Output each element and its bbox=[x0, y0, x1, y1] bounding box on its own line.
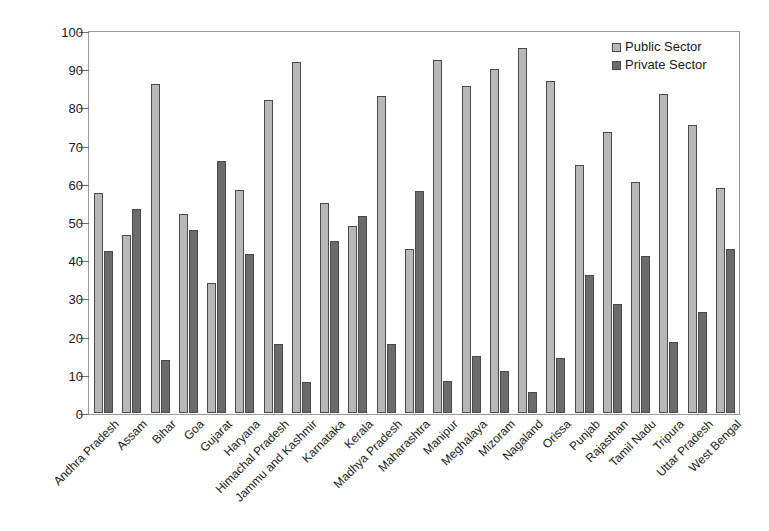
bar bbox=[716, 188, 725, 413]
bar bbox=[659, 94, 668, 413]
bar bbox=[490, 69, 499, 413]
bar-group bbox=[490, 33, 510, 413]
bar bbox=[122, 235, 131, 413]
bar-group bbox=[603, 33, 623, 413]
bar-group bbox=[151, 33, 171, 413]
bar bbox=[688, 125, 697, 413]
legend-item: Public Sector bbox=[612, 38, 707, 56]
bar bbox=[613, 304, 622, 413]
y-axis-tick-label: 20 bbox=[37, 330, 83, 345]
y-axis-tick-label: 70 bbox=[37, 139, 83, 154]
x-axis-label: Andhra Pradesh bbox=[51, 417, 122, 488]
bar-group bbox=[292, 33, 312, 413]
bar-group bbox=[462, 33, 482, 413]
bar bbox=[217, 161, 226, 413]
y-axis-tick-label: 30 bbox=[37, 292, 83, 307]
y-axis-title-text: Percentage of Employment bbox=[6, 0, 32, 26]
bar bbox=[161, 360, 170, 413]
y-axis-tick-label: 0 bbox=[37, 407, 83, 422]
legend-item-label: Private Sector bbox=[625, 56, 707, 74]
bar-group bbox=[122, 33, 142, 413]
bar bbox=[443, 381, 452, 413]
bar bbox=[462, 86, 471, 413]
y-axis-tick-label: 40 bbox=[37, 254, 83, 269]
bar-group bbox=[631, 33, 651, 413]
bar bbox=[575, 165, 584, 413]
bar bbox=[631, 182, 640, 413]
bar-group bbox=[377, 33, 397, 413]
y-axis-tick-label: 10 bbox=[37, 368, 83, 383]
bar bbox=[302, 382, 311, 413]
bar bbox=[405, 249, 414, 413]
bar bbox=[387, 344, 396, 413]
bar bbox=[104, 251, 113, 413]
bar bbox=[189, 230, 198, 413]
bar bbox=[546, 81, 555, 413]
bar bbox=[132, 209, 141, 413]
bar bbox=[320, 203, 329, 413]
bar-group bbox=[546, 33, 566, 413]
plot-area: 0102030405060708090100 bbox=[88, 31, 740, 415]
bar bbox=[528, 392, 537, 413]
bar-group bbox=[348, 33, 368, 413]
bar bbox=[94, 193, 103, 413]
bar bbox=[669, 342, 678, 413]
y-axis-tick-label: 80 bbox=[37, 101, 83, 116]
bar-group bbox=[264, 33, 284, 413]
bar-group bbox=[433, 33, 453, 413]
bar-group bbox=[320, 33, 340, 413]
bar bbox=[377, 96, 386, 413]
bar bbox=[151, 84, 160, 413]
bar bbox=[235, 190, 244, 413]
bar bbox=[698, 312, 707, 413]
bar bbox=[415, 191, 424, 413]
bar bbox=[348, 226, 357, 413]
bar bbox=[641, 256, 650, 413]
bar bbox=[207, 283, 216, 413]
bar-group bbox=[235, 33, 255, 413]
x-axis-label: Assam bbox=[114, 417, 150, 453]
chart-legend: Public SectorPrivate Sector bbox=[612, 38, 707, 74]
x-axis-label: Bihar bbox=[149, 417, 179, 447]
bar-group bbox=[688, 33, 708, 413]
bar bbox=[292, 62, 301, 413]
bar-group bbox=[179, 33, 199, 413]
y-axis-tick-label: 100 bbox=[37, 25, 83, 40]
bar bbox=[264, 100, 273, 413]
bar bbox=[603, 132, 612, 413]
bar-group bbox=[575, 33, 595, 413]
bar-group bbox=[405, 33, 425, 413]
bar bbox=[585, 275, 594, 413]
bar bbox=[726, 249, 735, 413]
bar bbox=[500, 371, 509, 413]
bar bbox=[433, 60, 442, 413]
y-axis-tick-label: 60 bbox=[37, 177, 83, 192]
bar-chart: Percentage of Employment 010203040506070… bbox=[0, 0, 769, 531]
x-axis-labels: Andhra PradeshAssamBiharGoaGujaratHaryan… bbox=[88, 417, 740, 529]
y-axis-title: Percentage of Employment bbox=[6, 0, 32, 26]
bar bbox=[179, 214, 188, 413]
bar bbox=[274, 344, 283, 413]
bar bbox=[472, 356, 481, 413]
bar bbox=[518, 48, 527, 413]
bar bbox=[330, 241, 339, 413]
y-axis-tick-label: 90 bbox=[37, 63, 83, 78]
bar-group bbox=[716, 33, 736, 413]
bar-series-container bbox=[90, 33, 738, 413]
bar-group bbox=[659, 33, 679, 413]
bar bbox=[358, 216, 367, 413]
legend-swatch-icon bbox=[612, 61, 621, 70]
legend-item-label: Public Sector bbox=[625, 38, 702, 56]
bar-group bbox=[94, 33, 114, 413]
bar bbox=[245, 254, 254, 413]
legend-item: Private Sector bbox=[612, 56, 707, 74]
legend-swatch-icon bbox=[612, 43, 621, 52]
y-axis-tick-label: 50 bbox=[37, 216, 83, 231]
bar-group bbox=[518, 33, 538, 413]
bar-group bbox=[207, 33, 227, 413]
bar bbox=[556, 358, 565, 413]
